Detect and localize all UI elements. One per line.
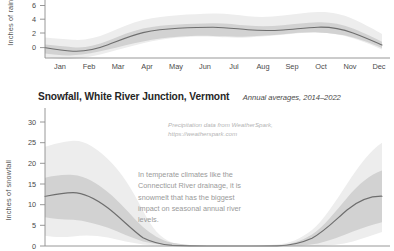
rainfall-xtick-label: Sep bbox=[279, 63, 305, 70]
snowfall-ytick-label: 5 bbox=[20, 222, 36, 229]
rainfall-xtick-label: Dec bbox=[366, 63, 392, 70]
snowfall-ytick-label: 30 bbox=[20, 119, 36, 126]
source-note-line-2: https://weatherspark.com bbox=[168, 130, 273, 139]
rainfall-ytick-label: 6 bbox=[20, 2, 36, 9]
source-note: Precipitation data from WeatherSpark, ht… bbox=[168, 121, 273, 139]
snowfall-ytick-label: 15 bbox=[20, 181, 36, 188]
rainfall-ytick-label: 4 bbox=[20, 16, 36, 23]
rainfall-xtick-label: May bbox=[163, 63, 189, 70]
rainfall-xtick-label: Jan bbox=[47, 63, 73, 70]
snowfall-plot-svg bbox=[0, 84, 394, 251]
rainfall-chart: Inches of rainfall 6 4 bbox=[0, 0, 394, 76]
snowfall-ytick-label: 25 bbox=[20, 139, 36, 146]
rainfall-xtick-label: Aug bbox=[250, 63, 276, 70]
snowfall-plot-area bbox=[0, 84, 394, 251]
rainfall-xtick-label: Jun bbox=[192, 63, 218, 70]
snowmelt-annotation: In temperate climates like the Connectic… bbox=[138, 169, 250, 225]
rainfall-xtick-label: Jul bbox=[221, 63, 247, 70]
rainfall-xtick-label: Feb bbox=[76, 63, 102, 70]
rainfall-xtick-label: Nov bbox=[337, 63, 363, 70]
snowfall-ytick-label: 0 bbox=[20, 243, 36, 250]
source-note-line-1: Precipitation data from WeatherSpark, bbox=[168, 121, 273, 130]
snowfall-chart: Snowfall, White River Junction, Vermont … bbox=[0, 84, 394, 251]
snowfall-ytick-label: 20 bbox=[20, 160, 36, 167]
rainfall-ytick-label: 0 bbox=[20, 44, 36, 51]
rainfall-xtick-label: Apr bbox=[134, 63, 160, 70]
figure-page: Inches of rainfall 6 4 bbox=[0, 0, 394, 251]
rainfall-ytick-label: 2 bbox=[20, 30, 36, 37]
rainfall-xtick-label: Oct bbox=[308, 63, 334, 70]
rainfall-xtick-label: Mar bbox=[105, 63, 131, 70]
snowfall-ytick-label: 10 bbox=[20, 201, 36, 208]
